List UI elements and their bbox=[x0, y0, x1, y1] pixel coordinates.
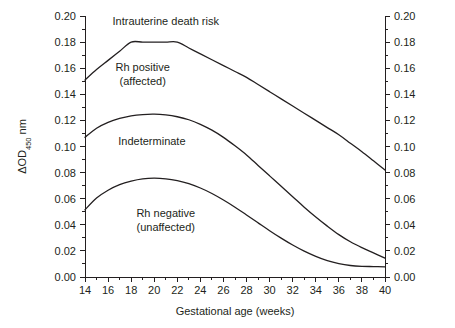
x-tick-label: 14 bbox=[79, 284, 91, 296]
right-y-tick-label: 0.10 bbox=[394, 141, 415, 153]
right-y-tick-label: 0.04 bbox=[394, 219, 415, 231]
x-tick-label: 30 bbox=[263, 284, 275, 296]
x-tick-label: 18 bbox=[125, 284, 137, 296]
right-y-tick-label: 0.06 bbox=[394, 193, 415, 205]
chart-canvas: 0.000.000.020.020.040.040.060.060.080.08… bbox=[0, 0, 455, 328]
x-tick-label: 40 bbox=[379, 284, 391, 296]
zone-label-rh-positive-line2: (affected) bbox=[120, 75, 166, 87]
left-y-tick-label: 0.14 bbox=[55, 88, 76, 100]
y-axis-title: ΔOD450 nm bbox=[16, 119, 33, 174]
left-y-tick-label: 0.10 bbox=[55, 141, 76, 153]
x-tick-label: 34 bbox=[310, 284, 322, 296]
x-tick-label: 36 bbox=[333, 284, 345, 296]
x-tick-label: 22 bbox=[171, 284, 183, 296]
curve-lower-boundary bbox=[85, 178, 385, 267]
right-y-tick-label: 0.20 bbox=[394, 10, 415, 22]
right-y-tick-label: 0.00 bbox=[394, 271, 415, 283]
left-y-tick-label: 0.00 bbox=[55, 271, 76, 283]
zone-label-intrauterine-death-risk: Intrauterine death risk bbox=[113, 15, 220, 27]
zone-labels-group: Intrauterine death riskRh positive(affec… bbox=[113, 15, 220, 233]
x-tick-label: 20 bbox=[148, 284, 160, 296]
left-y-tick-label: 0.18 bbox=[55, 36, 76, 48]
left-y-tick-label: 0.04 bbox=[55, 219, 76, 231]
left-y-tick-label: 0.12 bbox=[55, 114, 76, 126]
left-y-tick-label: 0.02 bbox=[55, 245, 76, 257]
left-y-tick-label: 0.08 bbox=[55, 167, 76, 179]
x-tick-label: 24 bbox=[194, 284, 206, 296]
zone-label-rh-negative-line1: Rh negative bbox=[136, 207, 195, 219]
axes-group: 0.000.000.020.020.040.040.060.060.080.08… bbox=[55, 10, 416, 296]
x-tick-label: 38 bbox=[356, 284, 368, 296]
right-y-tick-label: 0.16 bbox=[394, 62, 415, 74]
x-tick-label: 32 bbox=[287, 284, 299, 296]
zone-label-rh-negative-line2: (unaffected) bbox=[137, 221, 196, 233]
y-axis-title-text: ΔOD450 nm bbox=[16, 119, 33, 174]
left-y-tick-label: 0.06 bbox=[55, 193, 76, 205]
right-y-tick-label: 0.08 bbox=[394, 167, 415, 179]
x-tick-label: 16 bbox=[102, 284, 114, 296]
zone-label-indeterminate: Indeterminate bbox=[118, 135, 185, 147]
liley-curve-chart: 0.000.000.020.020.040.040.060.060.080.08… bbox=[0, 0, 455, 328]
left-y-tick-label: 0.20 bbox=[55, 10, 76, 22]
right-y-tick-label: 0.02 bbox=[394, 245, 415, 257]
left-y-tick-label: 0.16 bbox=[55, 62, 76, 74]
right-y-tick-label: 0.18 bbox=[394, 36, 415, 48]
right-y-tick-label: 0.12 bbox=[394, 114, 415, 126]
x-tick-label: 28 bbox=[240, 284, 252, 296]
zone-label-rh-positive-line1: Rh positive bbox=[115, 61, 169, 73]
x-tick-label: 26 bbox=[217, 284, 229, 296]
x-axis-title: Gestational age (weeks) bbox=[176, 305, 295, 317]
right-y-tick-label: 0.14 bbox=[394, 88, 415, 100]
